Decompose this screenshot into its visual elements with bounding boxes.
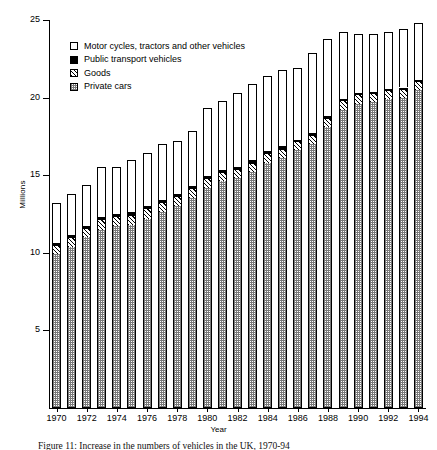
bar-segment — [203, 176, 212, 179]
bar-segment — [399, 29, 408, 87]
bar-segment — [233, 93, 242, 167]
bar-segment — [218, 173, 227, 182]
x-axis-tick — [57, 408, 58, 412]
legend-item: Private cars — [70, 81, 245, 93]
bar-segment — [52, 203, 61, 243]
bar-segment — [263, 151, 272, 154]
bar-segment — [339, 99, 348, 101]
bar-segment — [354, 34, 363, 93]
figure-caption: Figure 11: Increase in the numbers of ve… — [38, 441, 418, 450]
x-axis-tick — [177, 408, 178, 412]
bar-segment — [414, 90, 423, 408]
x-axis-label: Year — [0, 425, 437, 434]
bar-segment — [308, 136, 317, 145]
legend-item-label: Public transport vehicles — [84, 55, 182, 64]
bar-segment — [52, 246, 61, 255]
y-axis-tick-label: 20 — [0, 93, 40, 102]
bar-segment — [203, 188, 212, 408]
figure-container: 510152025 Millions 197019721974197619781… — [0, 0, 437, 450]
bar-segment — [233, 167, 242, 170]
bar-segment — [82, 237, 91, 408]
bar-segment — [354, 95, 363, 104]
bar-segment — [399, 98, 408, 408]
bar-segment — [354, 93, 363, 95]
bar-segment — [278, 70, 287, 147]
bar-segment — [127, 212, 136, 215]
y-axis-label: Millions — [18, 165, 27, 225]
bar-segment — [233, 178, 242, 408]
legend-swatch-icon — [70, 83, 78, 91]
bar-segment — [52, 243, 61, 246]
bar-segment — [263, 163, 272, 408]
bar-segment — [97, 230, 106, 408]
bar-segment — [97, 220, 106, 229]
bar-segment — [67, 238, 76, 247]
bar-segment — [203, 108, 212, 176]
bar-segment — [293, 142, 302, 151]
y-axis-tick — [43, 20, 49, 21]
bar-segment — [399, 88, 408, 90]
x-axis-tick — [298, 408, 299, 412]
bar-segment — [173, 194, 182, 197]
bar-segment — [218, 181, 227, 408]
bar-segment — [339, 110, 348, 408]
bar — [384, 20, 393, 408]
bar-segment — [188, 131, 197, 186]
bar-segment — [263, 154, 272, 163]
bar-segment — [384, 32, 393, 89]
bar-segment — [158, 144, 167, 200]
bar-segment — [263, 76, 272, 151]
bar — [323, 20, 332, 408]
bar-segment — [354, 104, 363, 408]
bar — [308, 20, 317, 408]
bar-segment — [323, 127, 332, 408]
x-axis-tick — [117, 408, 118, 412]
legend-item-label: Motor cycles, tractors and other vehicle… — [84, 42, 245, 51]
bar-segment — [248, 160, 257, 163]
bar-segment — [278, 150, 287, 159]
bar-segment — [384, 99, 393, 408]
bar — [369, 20, 378, 408]
bar-segment — [203, 179, 212, 188]
x-axis-tick — [268, 408, 269, 412]
bar-segment — [67, 247, 76, 408]
bar-segment — [308, 53, 317, 134]
bar-segment — [399, 90, 408, 98]
bar-segment — [112, 226, 121, 408]
bar-segment — [248, 84, 257, 161]
x-axis-tick — [147, 408, 148, 412]
bar-segment — [188, 198, 197, 408]
bar — [354, 20, 363, 408]
y-axis-tick-label: 5 — [0, 325, 40, 334]
bar-segment — [97, 217, 106, 220]
bar-segment — [233, 170, 242, 179]
bar-segment — [173, 141, 182, 194]
legend-item: Public transport vehicles — [70, 54, 245, 66]
bar-segment — [339, 32, 348, 99]
bar-segment — [293, 68, 302, 139]
bar-segment — [414, 80, 423, 82]
bar — [278, 20, 287, 408]
bar — [248, 20, 257, 408]
bar-segment — [97, 167, 106, 217]
legend-swatch-icon — [70, 69, 78, 77]
y-axis-line — [49, 20, 50, 409]
bar-segment — [308, 144, 317, 408]
bar — [399, 20, 408, 408]
bar-segment — [369, 94, 378, 102]
bar — [339, 20, 348, 408]
bar-segment — [127, 225, 136, 408]
x-axis-tick — [388, 408, 389, 412]
x-axis-tick — [328, 408, 329, 412]
y-axis-tick-label: 10 — [0, 248, 40, 257]
bar — [52, 20, 61, 408]
bar-segment — [323, 39, 332, 117]
y-axis-tick — [43, 98, 49, 99]
bar-segment — [188, 189, 197, 198]
bar-segment — [248, 164, 257, 173]
bar-segment — [218, 170, 227, 173]
bar-segment — [158, 212, 167, 408]
bar-segment — [112, 167, 121, 214]
bar-segment — [82, 229, 91, 238]
bar-segment — [293, 140, 302, 142]
